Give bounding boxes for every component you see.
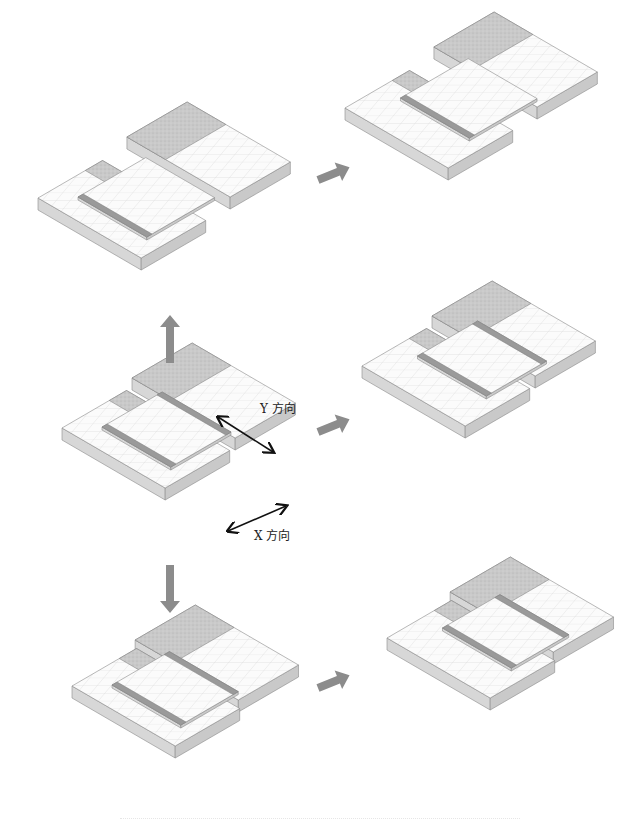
x-direction-arrow: [228, 506, 286, 531]
flow-arrow-down: [160, 565, 180, 613]
flow-arrow-right: [314, 410, 353, 441]
panel-middle-right: [362, 281, 595, 438]
panel-bottom-right: [387, 557, 614, 710]
diagram-canvas: Y 方向 X 方向: [0, 0, 633, 830]
figure-caption-cropped: [120, 818, 520, 825]
panel-top-right: [345, 12, 597, 180]
flow-arrow-right: [314, 158, 353, 189]
flow-arrow-right: [314, 666, 353, 697]
y-direction-label: Y 方向: [259, 401, 296, 416]
x-direction-label: X 方向: [254, 528, 290, 543]
panel-top-left: [38, 102, 290, 270]
panel-center: [62, 343, 295, 500]
panel-bottom-left: [72, 605, 299, 758]
